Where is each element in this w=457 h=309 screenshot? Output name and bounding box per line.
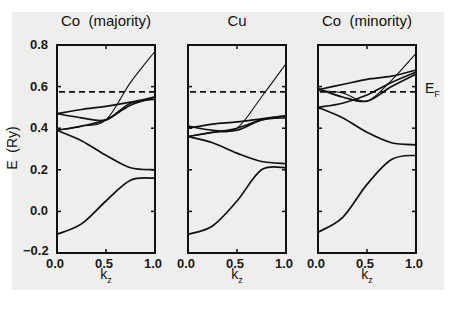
- band-curve: [318, 155, 416, 232]
- panel-frame: [318, 45, 416, 253]
- band-curve: [57, 97, 155, 114]
- band-curve: [57, 51, 155, 130]
- band-curve: [188, 118, 286, 131]
- band-structure-plot: [0, 0, 457, 309]
- band-curve: [188, 167, 286, 235]
- band-curve: [318, 107, 416, 144]
- band-curve: [318, 72, 416, 107]
- band-curve: [188, 137, 286, 164]
- band-curve: [57, 130, 155, 170]
- band-curve: [318, 70, 416, 90]
- band-curve: [57, 97, 155, 130]
- panel-frame: [57, 45, 155, 253]
- band-curve: [57, 178, 155, 234]
- panel-frame: [188, 45, 286, 253]
- band-curve: [188, 116, 286, 128]
